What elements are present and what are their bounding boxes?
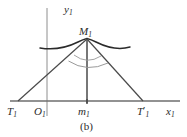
geometry-diagram xyxy=(0,0,187,137)
point-label-foot: m1 xyxy=(78,106,90,117)
figure-panel-b: y1 M1 T1 O1 m1 T′1 x1 (b) xyxy=(0,0,187,137)
prime-mark: ′ xyxy=(142,104,144,116)
point-label-right-vertex: T′1 xyxy=(137,106,149,117)
y-axis-label: y1 xyxy=(64,4,73,15)
figure-caption: (b) xyxy=(80,121,93,132)
point-label-left-vertex: T1 xyxy=(7,106,17,117)
point-label-apex: M1 xyxy=(79,26,92,37)
angle-arc-outer xyxy=(69,61,109,68)
x-axis-label: x1 xyxy=(166,106,175,117)
origin-label: O1 xyxy=(34,106,46,117)
